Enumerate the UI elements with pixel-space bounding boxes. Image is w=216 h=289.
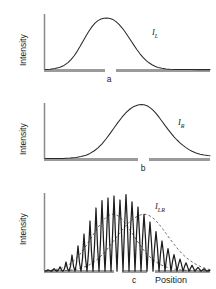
panel-a: Intensity IL a [18, 14, 210, 84]
panel-b-ylabel: Intensity [18, 123, 28, 155]
panel-b-label-sub: R [180, 123, 185, 129]
panel-b: Intensity IR b [18, 103, 210, 173]
panel-b-intensity-curve [45, 105, 210, 159]
panel-c-xlabel: Position [155, 275, 187, 285]
panel-a-letter: a [107, 74, 112, 84]
panel-c: Intensity ILR c Position [18, 193, 210, 285]
panel-c-curve-label: ILR [154, 201, 165, 213]
panel-b-letter: b [141, 163, 146, 173]
figure-container: Intensity IL a Intensity IR b Intensity [0, 0, 216, 289]
panel-b-curve-label: IR [177, 117, 185, 129]
panel-a-intensity-curve [45, 18, 210, 70]
svg-text:ILR: ILR [154, 201, 165, 213]
panel-a-curve-label: IL [151, 27, 159, 39]
svg-text:IR: IR [177, 117, 185, 129]
panel-c-letter: c [132, 275, 137, 285]
panel-c-label-sub: LR [157, 207, 165, 213]
panel-a-ylabel: Intensity [18, 34, 28, 66]
panel-a-label-sub: L [154, 33, 159, 39]
svg-text:IL: IL [151, 27, 159, 39]
panel-c-ylabel: Intensity [18, 213, 28, 245]
panel-c-fringe-curve [45, 195, 210, 272]
